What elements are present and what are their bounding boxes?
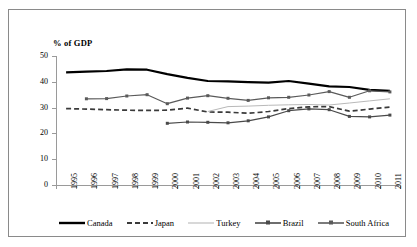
data-point [348,115,351,118]
data-point [368,89,371,92]
data-point [206,121,209,124]
legend-swatch-icon [188,218,214,228]
data-point [247,99,250,102]
series-line-japan [66,107,390,114]
legend-swatch-icon [255,218,281,228]
legend-label: Brazil [283,218,304,228]
data-point [227,97,230,100]
legend-swatch-icon [59,218,85,228]
data-point [287,109,290,112]
chart-legend: CanadaJapanTurkeyBrazilSouth Africa [59,215,389,231]
data-point [348,96,351,99]
data-point [267,96,270,99]
data-point [227,121,230,124]
legend-swatch-icon [127,218,153,228]
data-point [125,95,128,98]
legend-item-turkey[interactable]: Turkey [188,218,240,228]
data-point [368,115,371,118]
chart-plot-area [9,10,407,238]
data-point [328,90,331,93]
data-point [206,94,209,97]
data-point [328,108,331,111]
legend-item-south-africa[interactable]: South Africa [318,218,389,228]
data-point [146,93,149,96]
data-point [166,102,169,105]
legend-swatch-icon [318,218,344,228]
legend-item-brazil[interactable]: Brazil [255,218,304,228]
data-point [166,122,169,125]
legend-item-canada[interactable]: Canada [59,218,113,228]
data-point [287,96,290,99]
legend-label: Turkey [216,218,240,228]
data-point [85,97,88,100]
legend-label: Canada [87,218,113,228]
data-point [267,115,270,118]
data-point [186,121,189,124]
data-point [307,94,310,97]
series-line-canada [66,69,390,90]
chart-frame: % of GDP 01020304050 1995199619971998199… [8,9,406,237]
legend-item-japan[interactable]: Japan [127,218,174,228]
data-point [247,119,250,122]
data-point [307,107,310,110]
legend-label: Japan [155,218,174,228]
data-point [105,97,108,100]
series-line-south-africa [86,91,390,104]
legend-label: South Africa [346,218,389,228]
data-point [388,90,391,93]
data-point [388,114,391,117]
data-point [186,97,189,100]
